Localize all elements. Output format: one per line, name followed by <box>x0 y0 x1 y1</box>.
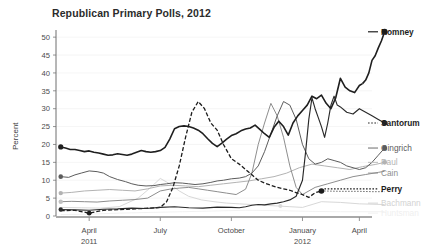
y-tick-label-20: 20 <box>42 140 50 149</box>
y-tick-label-50: 50 <box>42 33 50 42</box>
y-tick-label-40: 40 <box>42 69 50 78</box>
y-tick-label-5: 5 <box>46 194 50 203</box>
x-tick-label-april: April <box>352 226 368 235</box>
legend-label-huntsman[interactable]: Huntsman <box>381 208 419 218</box>
y-tick-label-35: 35 <box>42 87 50 96</box>
x-tick-sublabel-2012: 2012 <box>294 237 311 246</box>
republican-primary-polls-chart: Republican Primary Polls, 2012 051015202… <box>0 0 447 252</box>
x-tick-label-january: January <box>289 226 316 235</box>
legend-label-bachmann[interactable]: Bachmann <box>381 198 421 208</box>
start-marker-romney <box>58 144 63 149</box>
legend-label-gingrich[interactable]: Gingrich <box>381 143 412 153</box>
end-marker-perry <box>319 188 325 194</box>
legend-label-romney[interactable]: Romney <box>381 27 414 37</box>
y-tick-label-30: 30 <box>42 104 50 113</box>
legend-label-cain[interactable]: Cain <box>381 168 398 178</box>
end-marker-bachmann <box>278 204 282 208</box>
chart-title: Republican Primary Polls, 2012 <box>52 7 211 19</box>
x-tick-label-october: October <box>218 226 245 235</box>
start-marker-gingrich <box>58 174 63 179</box>
legend-label-paul[interactable]: Paul <box>381 157 398 167</box>
legend-label-perry[interactable]: Perry <box>381 184 403 194</box>
chart-container: Republican Primary Polls, 2012 051015202… <box>0 0 447 252</box>
y-tick-label-0: 0 <box>46 212 50 221</box>
y-tick-label-25: 25 <box>42 122 50 131</box>
y-tick-label-10: 10 <box>42 176 50 185</box>
start-marker-perry <box>87 211 92 216</box>
y-tick-label-45: 45 <box>42 51 50 60</box>
x-tick-label-july: July <box>154 226 168 235</box>
start-marker-santorum <box>59 207 63 211</box>
y-tick-label-15: 15 <box>42 158 50 167</box>
legend-label-santorum[interactable]: Santorum <box>381 118 420 128</box>
start-marker-cain <box>59 199 63 203</box>
start-marker-paul <box>59 191 63 195</box>
x-tick-sublabel-2011: 2011 <box>81 237 97 246</box>
y-axis-title: Percent <box>11 122 20 150</box>
x-tick-label-april: April <box>82 226 98 235</box>
